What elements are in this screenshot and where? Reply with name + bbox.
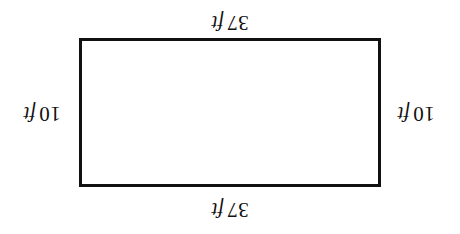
- dimension-label-right-unit: ft: [23, 102, 39, 126]
- dimension-label-right: 10ft: [16, 103, 68, 124]
- dimension-label-right-value: 10: [39, 102, 61, 126]
- dimension-label-top-unit: ft: [211, 198, 227, 222]
- dimension-label-top: 37ft: [0, 199, 460, 220]
- dimension-label-left: 10ft: [390, 103, 442, 124]
- dimension-label-top-value: 37: [227, 198, 249, 222]
- rectangle-diagram: 37ft 37ft 10ft 10ft: [0, 0, 460, 234]
- dimension-label-bottom-value: 37: [227, 11, 249, 35]
- dimension-label-left-unit: ft: [397, 102, 413, 126]
- dimension-label-left-value: 10: [413, 102, 435, 126]
- dimension-label-bottom-unit: ft: [211, 11, 227, 35]
- rectangle-outline: [79, 38, 381, 187]
- dimension-label-bottom: 37ft: [0, 12, 460, 33]
